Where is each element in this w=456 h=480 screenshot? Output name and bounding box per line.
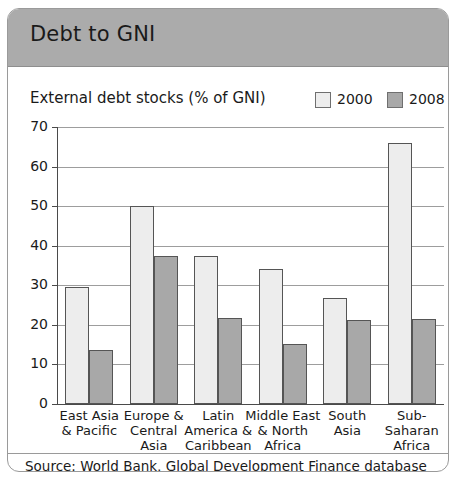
bar-2000-1	[130, 206, 154, 404]
gridline	[57, 246, 444, 247]
bar-2000-0	[65, 287, 89, 404]
x-axis-line	[57, 404, 444, 405]
legend-label-2008: 2008	[409, 91, 445, 107]
source-divider	[8, 453, 449, 454]
y-tick-label: 50	[14, 197, 48, 213]
bar-2008-5	[412, 319, 436, 404]
category-label-line: Africa	[368, 438, 449, 453]
y-tick-label: 30	[14, 276, 48, 292]
y-axis-line	[57, 127, 58, 405]
y-tick-label: 10	[14, 355, 48, 371]
y-tick-label: 20	[14, 316, 48, 332]
bar-2000-4	[323, 298, 347, 404]
legend-swatch-2000	[315, 92, 331, 108]
bar-2008-2	[218, 318, 242, 404]
bar-2000-5	[388, 143, 412, 404]
chart-subtitle: External debt stocks (% of GNI)	[30, 89, 266, 107]
legend-label-2000: 2000	[337, 91, 373, 107]
bar-2008-0	[89, 350, 113, 404]
category-label-5: Sub-SaharanAfrica	[368, 408, 449, 453]
category-label-line: Africa	[239, 438, 327, 453]
category-label-line: Sub-	[368, 408, 449, 423]
bar-2008-1	[154, 256, 178, 404]
category-label-line: Saharan	[368, 423, 449, 438]
card-header: Debt to GNI	[8, 9, 449, 67]
chart-plot-area	[57, 127, 444, 404]
y-tick-label: 60	[14, 158, 48, 174]
legend-swatch-2008	[387, 92, 403, 108]
gridline	[57, 364, 444, 365]
plot-frame	[57, 127, 444, 404]
gridline	[57, 206, 444, 207]
gridline	[57, 127, 444, 128]
chart-card: Debt to GNI External debt stocks (% of G…	[7, 8, 449, 472]
page-title: Debt to GNI	[30, 22, 155, 46]
source-note: Source: World Bank, Global Development F…	[25, 458, 427, 472]
y-tick-label: 40	[14, 237, 48, 253]
bar-2000-2	[194, 256, 218, 404]
gridline	[57, 285, 444, 286]
y-tick-label: 0	[14, 395, 48, 411]
bar-2000-3	[259, 269, 283, 404]
gridline	[57, 325, 444, 326]
bar-2008-3	[283, 344, 307, 404]
gridline	[57, 167, 444, 168]
bar-2008-4	[347, 320, 371, 404]
y-tick-label: 70	[14, 118, 48, 134]
